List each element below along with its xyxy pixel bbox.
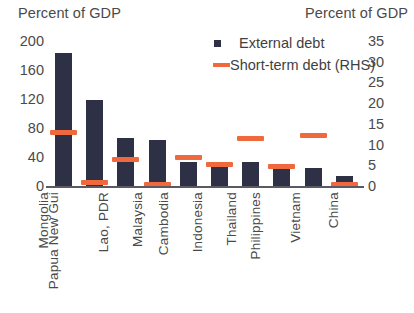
right-tick-label: 35: [368, 34, 384, 49]
right-tick-label: 10: [368, 138, 384, 153]
left-axis-ticks: 20016012080400: [0, 0, 44, 313]
bar-group: [142, 41, 173, 186]
external-debt-bar: [86, 100, 103, 186]
legend-label-external-debt: External debt: [239, 35, 324, 51]
chart-container: Percent of GDP Percent of GDP 2001601208…: [0, 0, 414, 313]
left-tick-label: 200: [20, 34, 44, 49]
bar-group: [79, 41, 110, 186]
category-label-text: Indonesia: [189, 192, 204, 252]
category-label-text: Philippines: [248, 192, 263, 260]
category-label-text: Malaysia: [130, 192, 145, 247]
legend-item-short-term-debt: Short-term debt (RHS): [213, 54, 363, 76]
bar-group: [48, 41, 79, 186]
left-tick-label: 160: [20, 63, 44, 78]
right-axis-ticks: 35302520151050: [368, 0, 412, 313]
short-term-debt-marker: [81, 180, 108, 185]
category-label-text: China: [326, 192, 341, 228]
left-tick-label: 40: [28, 150, 44, 165]
short-term-debt-marker: [175, 155, 202, 160]
short-term-debt-marker: [268, 164, 295, 169]
category-label-text: Lao, PDR: [96, 192, 111, 252]
short-term-debt-marker: [300, 133, 327, 138]
external-debt-bar: [149, 140, 166, 186]
right-tick-label: 0: [368, 179, 376, 194]
right-tick-label: 20: [368, 96, 384, 111]
short-term-debt-marker: [112, 157, 139, 162]
short-term-debt-marker: [206, 162, 233, 167]
category-label: China: [329, 190, 360, 310]
right-tick-label: 15: [368, 117, 384, 132]
short-term-debt-marker: [50, 130, 77, 135]
category-label-text: Cambodia: [157, 192, 172, 255]
x-axis-line: [46, 186, 364, 188]
category-label: Vietnam: [298, 190, 329, 310]
external-debt-bar: [273, 168, 290, 186]
bar-group: [110, 41, 141, 186]
legend-label-short-term-debt: Short-term debt (RHS): [230, 57, 375, 73]
chart-legend: External debt Short-term debt (RHS): [213, 32, 363, 76]
short-term-debt-marker: [237, 136, 264, 141]
external-debt-bar: [55, 53, 72, 186]
legend-item-external-debt: External debt: [213, 32, 363, 54]
external-debt-bar: [180, 162, 197, 186]
external-debt-bar: [242, 162, 259, 186]
category-label-text: Papua New Gui: [46, 192, 61, 289]
category-axis-labels: MongoliaPapua New GuiLao, PDRMalaysiaCam…: [48, 190, 360, 313]
right-tick-label: 5: [368, 158, 376, 173]
external-debt-bar: [305, 168, 322, 186]
category-label-text: Thailand: [224, 192, 239, 245]
left-tick-label: 120: [20, 92, 44, 107]
left-tick-label: 80: [28, 121, 44, 136]
square-marker-icon: [213, 40, 239, 47]
external-debt-bar: [211, 166, 228, 186]
external-debt-bar: [117, 138, 134, 186]
right-tick-label: 25: [368, 75, 384, 90]
category-label-text: Vietnam: [288, 192, 303, 243]
bar-group: [173, 41, 204, 186]
dash-marker-icon: [213, 63, 230, 67]
